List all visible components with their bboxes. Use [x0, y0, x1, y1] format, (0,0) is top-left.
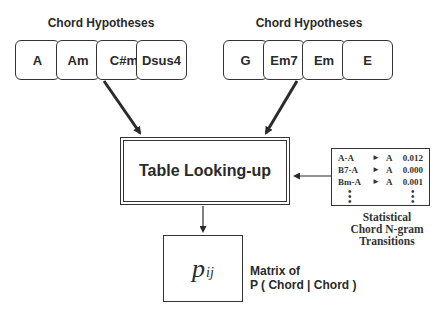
left-group-title: Chord Hypotheses [15, 16, 187, 30]
matrix-subscript: ij [206, 265, 214, 281]
probability-matrix-box: pij [163, 235, 243, 302]
chord-card: A [15, 40, 60, 80]
chord-card: E [342, 40, 393, 80]
ngram-transition-table: A-A ► A 0.012 B7-A ► A 0.000 Bm-A ► A 0.… [331, 148, 430, 206]
chord-label: G [240, 53, 250, 68]
chord-card: G [223, 40, 268, 80]
table-lookup-label: Table Looking-up [123, 140, 287, 202]
matrix-symbol: p [192, 254, 205, 284]
caption-line: Matrix of [250, 264, 356, 278]
chord-card: Em7 [263, 40, 305, 80]
transition-target: A [386, 177, 393, 187]
caption-line: Transitions [331, 235, 443, 247]
caption-line: Statistical [331, 211, 443, 223]
transition-target: A [386, 153, 393, 163]
chord-label: Em [314, 53, 334, 68]
arrow-right-icon: ► [372, 153, 380, 162]
transition-row: B7-A ► A 0.000 [338, 165, 423, 176]
chord-card: Dsus4 [136, 40, 187, 80]
right-group-title: Chord Hypotheses [223, 16, 395, 30]
chord-label: E [363, 53, 372, 68]
matrix-caption: Matrix of P ( Chord | Chord ) [250, 264, 356, 292]
chord-label: Dsus4 [142, 53, 181, 68]
transition-probability: 0.012 [403, 153, 423, 163]
table-lookup-box: Table Looking-up [120, 137, 290, 205]
left-group-arrow [104, 81, 140, 133]
arrow-right-icon: ► [372, 177, 380, 186]
caption-line: P ( Chord | Chord ) [250, 278, 356, 292]
vertical-ellipsis-icon: ••• [348, 189, 352, 204]
chord-card: C#m [96, 40, 140, 80]
chord-label: C#m [110, 53, 138, 68]
transition-probability: 0.000 [403, 165, 423, 175]
transition-target: A [386, 165, 393, 175]
arrow-right-icon: ► [372, 165, 380, 174]
chord-card: Am [56, 40, 100, 80]
caption-line: Chord N-gram [331, 223, 443, 235]
transition-source: A-A [338, 153, 354, 163]
chord-label: A [33, 53, 42, 68]
chord-label: Am [68, 53, 89, 68]
transition-source: B7-A [338, 165, 358, 175]
chord-label: Em7 [270, 53, 297, 68]
chord-card: Em [302, 40, 346, 80]
transition-row: A-A ► A 0.012 [338, 153, 423, 164]
stats-caption: Statistical Chord N-gram Transitions [331, 211, 443, 247]
vertical-ellipsis-icon: ••• [411, 189, 415, 204]
right-group-arrow [266, 81, 297, 133]
